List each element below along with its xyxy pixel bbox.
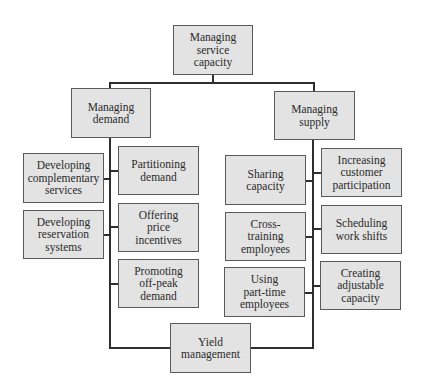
node-managing-supply: Managing supply xyxy=(274,91,355,140)
connector-sharing xyxy=(305,180,313,182)
node-developing-reservation-systems: Developing reservation systems xyxy=(23,210,104,259)
node-creating-adjustable-capacity: Creating adjustable capacity xyxy=(320,261,401,310)
supply-to-yield-connector xyxy=(251,347,313,349)
supply-spine xyxy=(312,139,314,349)
connector-reservation xyxy=(103,234,110,236)
demand-to-yield-connector xyxy=(109,347,171,349)
node-sharing-capacity: Sharing capacity xyxy=(225,155,306,205)
service-capacity-diagram: Managing service capacity Managing deman… xyxy=(0,0,422,391)
node-partitioning-demand: Partitioning demand xyxy=(118,146,199,195)
node-increasing-customer-participation: Increasing customer participation xyxy=(321,148,402,197)
node-yield-management: Yield management xyxy=(170,323,251,373)
node-offering-price-incentives: Offering price incentives xyxy=(118,203,199,252)
node-scheduling-work-shifts: Scheduling work shifts xyxy=(321,205,402,254)
node-managing-demand: Managing demand xyxy=(71,88,151,138)
top-horizontal-connector xyxy=(109,82,314,84)
node-using-part-time-employees: Using part-time employees xyxy=(224,267,305,317)
node-promoting-off-peak-demand: Promoting off-peak demand xyxy=(118,259,199,308)
connector-parttime xyxy=(304,292,313,294)
demand-spine xyxy=(109,137,111,349)
connector-crosstraining xyxy=(305,236,313,238)
connector-complementary xyxy=(103,178,110,180)
node-managing-service-capacity: Managing service capacity xyxy=(173,25,253,75)
node-cross-training-employees: Cross- training employees xyxy=(225,212,306,261)
node-developing-complementary-services: Developing complementary services xyxy=(23,153,104,203)
